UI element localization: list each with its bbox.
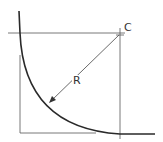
center-label: C — [124, 22, 132, 33]
radius-label: R — [72, 75, 82, 86]
fillet-arc — [19, 11, 155, 134]
diagram-canvas: C R — [0, 0, 163, 142]
radius-dimension-line — [51, 35, 119, 101]
fillet-diagram — [0, 0, 163, 142]
